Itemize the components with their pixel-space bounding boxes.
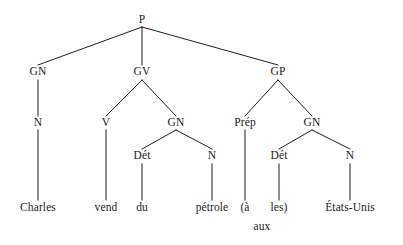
tree-leaf-w_vend: vend: [95, 202, 118, 214]
tree-edge: [142, 130, 176, 149]
tree-edge: [38, 27, 142, 65]
tree-leaf-w_a: (à: [240, 202, 249, 214]
tree-leaf-w_etats: États-Unis: [325, 202, 375, 214]
tree-node-det2: Dét: [271, 150, 288, 162]
tree-node-gn1: GN: [30, 66, 47, 78]
tree-edge: [245, 80, 278, 116]
tree-node-prep: Prép: [234, 117, 255, 129]
tree-edge: [278, 80, 312, 116]
tree-node-p: P: [139, 14, 146, 26]
tree-node-gn3: GN: [304, 117, 321, 129]
tree-leaf-w_du: du: [136, 202, 148, 214]
tree-edge: [142, 80, 176, 116]
tree-node-gp: GP: [271, 66, 286, 78]
tree-node-gn2: GN: [168, 117, 185, 129]
tree-node-v: V: [102, 117, 110, 129]
tree-leaf-w_charles: Charles: [20, 202, 56, 214]
tree-node-n1: N: [34, 117, 42, 129]
tree-edge: [176, 130, 212, 149]
tree-node-n2: N: [208, 150, 216, 162]
tree-node-n3: N: [346, 150, 354, 162]
tree-node-gv: GV: [134, 66, 151, 78]
tree-leaf-w_petrole: pétrole: [196, 202, 229, 214]
tree-edge: [106, 80, 142, 116]
syntax-tree-figure: PGNGVGPNVGNPrépGNDétNDétNCharlesvenddupé…: [0, 0, 403, 245]
tree-edge: [312, 130, 350, 149]
tree-edge: [279, 130, 312, 149]
tree-edge: [142, 27, 278, 65]
tree-gloss-w_aux: aux: [254, 221, 271, 233]
tree-edge-group: [38, 27, 350, 200]
tree-leaf-w_les: les): [270, 202, 287, 214]
tree-node-det1: Dét: [134, 150, 151, 162]
